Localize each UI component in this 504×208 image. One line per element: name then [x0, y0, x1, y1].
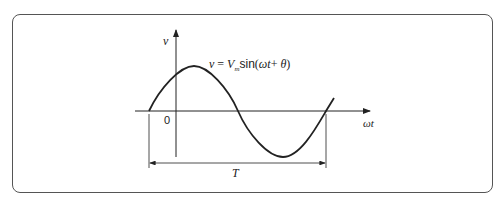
period-label: T: [232, 166, 240, 180]
x-axis-label: ωt: [363, 117, 375, 129]
y-axis-label: v: [163, 34, 169, 48]
sine-wave-diagram: v 0 ωt T v = Vmsin(ωt+ θ): [0, 0, 504, 208]
origin-label: 0: [164, 114, 170, 126]
equation: v = Vmsin(ωt+ θ): [209, 57, 290, 73]
